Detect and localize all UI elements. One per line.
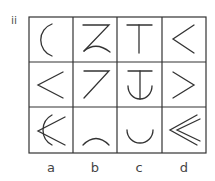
arc-less-than-symbol [38,115,65,145]
column-label-d: d [162,160,206,175]
seven-symbol [84,71,109,98]
cup-arc-symbol [127,130,153,143]
column-label-c: c [117,160,161,175]
less-than-symbol [38,72,63,98]
symbol-grid [0,0,215,181]
left-arc-symbol [41,24,52,56]
greater-than-symbol [173,72,194,98]
less-than-symbol [173,25,194,53]
double-less-than-symbol [170,115,200,145]
column-label-b: b [73,160,117,175]
column-label-a: a [29,160,73,175]
z-arc-symbol [83,25,110,52]
anchor-symbol [128,71,152,99]
cap-arc-symbol [83,139,109,146]
t-symbol [127,25,152,53]
